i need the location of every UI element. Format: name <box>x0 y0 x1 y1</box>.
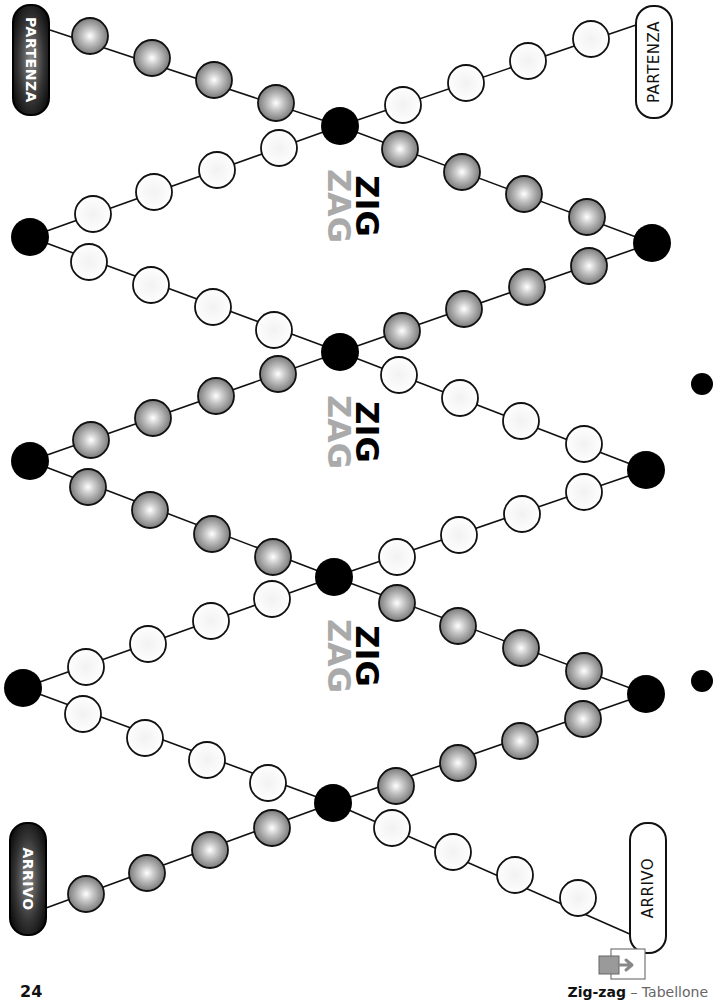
junction-space[interactable] <box>4 669 42 707</box>
caption-separator: – <box>626 984 642 1000</box>
gray-bead-space[interactable] <box>503 630 539 666</box>
junction-space[interactable] <box>633 224 671 262</box>
gray-bead-space[interactable] <box>198 378 234 414</box>
gray-bead-space[interactable] <box>382 131 418 167</box>
white-bead-space[interactable] <box>254 581 290 617</box>
gray-bead-space[interactable] <box>70 469 106 505</box>
page-caption: Zig-zag – Tabellone <box>568 984 708 1000</box>
gray-bead-space[interactable] <box>72 18 108 54</box>
gray-bead-space[interactable] <box>196 62 232 98</box>
junction-space[interactable] <box>315 558 353 596</box>
white-bead-space[interactable] <box>497 857 533 893</box>
gray-bead-space[interactable] <box>506 176 542 212</box>
start-right-pill[interactable]: PARTENZA <box>635 5 673 119</box>
finish-left-pill[interactable]: ARRIVO <box>9 822 47 936</box>
white-bead-space[interactable] <box>566 426 602 462</box>
white-bead-space[interactable] <box>573 21 609 57</box>
gray-bead-space[interactable] <box>258 85 294 121</box>
gray-bead-space[interactable] <box>379 585 415 621</box>
gray-bead-space[interactable] <box>132 492 168 528</box>
junction-space[interactable] <box>11 442 49 480</box>
gray-bead-space[interactable] <box>571 248 607 284</box>
binding-hole-dot <box>691 670 713 692</box>
finish-right-label: ARRIVO <box>639 858 657 918</box>
zigzag-title-1: ZIG ZAG <box>300 190 370 300</box>
caption-subtitle: Tabellone <box>642 984 708 1000</box>
white-bead-space[interactable] <box>75 196 111 232</box>
white-bead-space[interactable] <box>130 626 166 662</box>
white-bead-space[interactable] <box>374 810 410 846</box>
white-bead-space[interactable] <box>448 65 484 101</box>
white-bead-space[interactable] <box>65 696 101 732</box>
export-arrow-icon[interactable] <box>597 948 647 980</box>
gray-bead-space[interactable] <box>135 400 171 436</box>
white-bead-space[interactable] <box>193 603 229 639</box>
white-bead-space[interactable] <box>256 312 292 348</box>
gray-bead-space[interactable] <box>440 745 476 781</box>
white-bead-space[interactable] <box>503 403 539 439</box>
junction-space[interactable] <box>321 333 359 371</box>
zag-word: ZAG <box>302 416 376 526</box>
white-bead-space[interactable] <box>127 720 163 756</box>
caption-title: Zig-zag <box>568 984 626 1000</box>
white-bead-space[interactable] <box>560 880 596 916</box>
gray-bead-space[interactable] <box>502 723 538 759</box>
gray-bead-space[interactable] <box>569 199 605 235</box>
zigzag-title-2: ZIG ZAG <box>300 416 370 526</box>
gray-bead-space[interactable] <box>384 313 420 349</box>
gray-bead-space[interactable] <box>378 768 414 804</box>
start-left-pill[interactable]: PARTENZA <box>12 4 50 116</box>
start-left-label: PARTENZA <box>23 17 39 103</box>
white-bead-space[interactable] <box>510 43 546 79</box>
gray-bead-space[interactable] <box>566 653 602 689</box>
junction-space[interactable] <box>627 451 665 489</box>
white-bead-space[interactable] <box>441 517 477 553</box>
white-bead-space[interactable] <box>71 244 107 280</box>
gray-bead-space[interactable] <box>254 810 290 846</box>
junction-space[interactable] <box>11 218 49 256</box>
binding-hole-dot <box>691 373 713 395</box>
white-bead-space[interactable] <box>504 496 540 532</box>
gray-bead-space[interactable] <box>134 40 170 76</box>
white-bead-space[interactable] <box>381 357 417 393</box>
gray-bead-space[interactable] <box>446 291 482 327</box>
gray-bead-space[interactable] <box>192 832 228 868</box>
zag-word: ZAG <box>302 640 376 750</box>
side-dots <box>691 373 713 692</box>
white-bead-space[interactable] <box>379 539 415 575</box>
white-bead-space[interactable] <box>195 289 231 325</box>
finish-left-label: ARRIVO <box>20 847 36 910</box>
zigzag-title-3: ZIG ZAG <box>300 640 370 750</box>
white-bead-space[interactable] <box>133 267 169 303</box>
page-number: 24 <box>20 982 42 1001</box>
gray-bead-space[interactable] <box>444 154 480 190</box>
junction-space[interactable] <box>314 784 352 822</box>
white-bead-space[interactable] <box>189 742 225 778</box>
gray-bead-space[interactable] <box>194 516 230 552</box>
gray-bead-space[interactable] <box>129 855 165 891</box>
white-bead-space[interactable] <box>136 174 172 210</box>
white-bead-space[interactable] <box>68 649 104 685</box>
white-bead-space[interactable] <box>250 765 286 801</box>
white-bead-space[interactable] <box>261 130 297 166</box>
junction-space[interactable] <box>321 107 359 145</box>
white-bead-space[interactable] <box>566 474 602 510</box>
gray-bead-space[interactable] <box>73 422 109 458</box>
white-bead-space[interactable] <box>435 834 471 870</box>
gray-bead-space[interactable] <box>260 356 296 392</box>
white-bead-space[interactable] <box>199 152 235 188</box>
gray-bead-space[interactable] <box>509 269 545 305</box>
white-bead-space[interactable] <box>385 87 421 123</box>
white-bead-space[interactable] <box>442 380 478 416</box>
zag-word: ZAG <box>302 190 376 300</box>
gray-bead-space[interactable] <box>440 608 476 644</box>
finish-right-pill[interactable]: ARRIVO <box>629 822 667 954</box>
gray-bead-space[interactable] <box>565 701 601 737</box>
gray-bead-space[interactable] <box>255 539 291 575</box>
junction-space[interactable] <box>627 675 665 713</box>
start-right-label: PARTENZA <box>645 21 663 103</box>
gray-bead-space[interactable] <box>68 876 104 912</box>
